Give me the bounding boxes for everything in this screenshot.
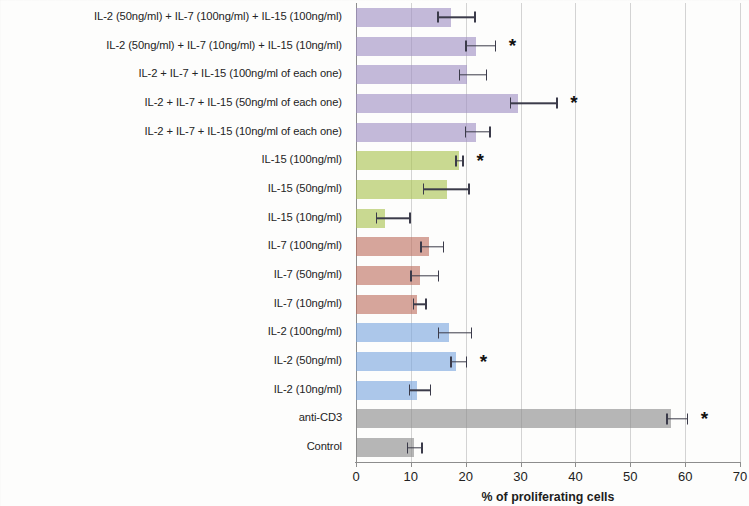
category-label: IL-7 (100ng/ml): [268, 240, 342, 251]
category-label: IL-2 (50ng/ml) + IL-7 (10ng/ml) + IL-15 …: [106, 40, 342, 51]
x-tick-label-0: 0: [352, 469, 359, 484]
error-bar: [420, 246, 442, 247]
bar-row[interactable]: [356, 123, 740, 142]
x-axis-title: % of proliferating cells: [356, 490, 740, 504]
significance-asterisk: *: [480, 352, 487, 371]
error-bar: [465, 131, 490, 132]
plot-area: *****: [356, 3, 740, 462]
bar-row[interactable]: *: [356, 37, 740, 56]
error-bar-cap-low: [510, 98, 511, 109]
error-bar: [666, 418, 686, 419]
x-tick-60: [685, 462, 686, 467]
bar-row[interactable]: *: [356, 94, 740, 113]
error-bar-cap-high: [425, 299, 426, 310]
x-tick-label-30: 30: [513, 469, 527, 484]
bar-control[interactable]: [356, 409, 671, 428]
error-bar-cap-low: [410, 270, 411, 281]
bar-triple-combination[interactable]: [356, 37, 476, 56]
error-bar-cap-high: [466, 356, 467, 367]
error-bar-cap-high: [443, 241, 444, 252]
error-bar-cap-low: [413, 299, 414, 310]
error-bar: [510, 103, 557, 104]
x-tick-50: [630, 462, 631, 467]
bar-row[interactable]: [356, 295, 740, 314]
error-bar-cap-low: [420, 241, 421, 252]
bar-triple-combination[interactable]: [356, 94, 518, 113]
error-bar: [410, 275, 437, 276]
error-bar-cap-low: [438, 327, 439, 338]
x-tick-20: [466, 462, 467, 467]
error-bar-cap-low: [376, 213, 377, 224]
category-label: anti-CD3: [299, 412, 342, 423]
error-bar-cap-high: [687, 413, 688, 424]
category-label: IL-2 + IL-7 + IL-15 (100ng/ml of each on…: [138, 68, 342, 79]
bar-row[interactable]: *: [356, 352, 740, 371]
category-label: IL-7 (10ng/ml): [274, 298, 342, 309]
error-bar: [459, 74, 486, 75]
proliferation-bar-chart: IL-2 (50ng/ml) + IL-7 (100ng/ml) + IL-15…: [0, 0, 749, 506]
x-axis-line: [355, 462, 741, 463]
category-label: IL-2 (50ng/ml): [274, 355, 342, 366]
bar-row[interactable]: [356, 266, 740, 285]
error-bar-cap-low: [459, 69, 460, 80]
bar-IL-2[interactable]: [356, 352, 456, 371]
bar-control[interactable]: [356, 438, 414, 457]
bar-row[interactable]: [356, 65, 740, 84]
significance-asterisk: *: [509, 36, 516, 55]
category-label: IL-2 (10ng/ml): [274, 384, 342, 395]
error-bar: [450, 361, 465, 362]
error-bar-cap-low: [450, 356, 451, 367]
bar-IL-15[interactable]: [356, 151, 459, 170]
bar-row[interactable]: *: [356, 151, 740, 170]
error-bar-cap-low: [409, 385, 410, 396]
category-label: IL-15 (50ng/ml): [268, 183, 342, 194]
x-tick-70: [740, 462, 741, 467]
significance-asterisk: *: [701, 409, 708, 428]
bar-IL-7[interactable]: [356, 237, 429, 256]
error-bar: [438, 332, 471, 333]
error-bar-cap-high: [409, 213, 410, 224]
x-tick-label-50: 50: [623, 469, 637, 484]
bar-row[interactable]: *: [356, 409, 740, 428]
error-bar: [407, 447, 421, 448]
bar-IL-2[interactable]: [356, 323, 449, 342]
bar-row[interactable]: [356, 381, 740, 400]
error-bar-cap-high: [421, 442, 422, 453]
error-bar-cap-high: [438, 270, 439, 281]
error-bar-cap-high: [468, 184, 469, 195]
error-bar-cap-high: [471, 327, 472, 338]
bar-IL-7[interactable]: [356, 295, 417, 314]
x-tick-30: [521, 462, 522, 467]
category-label: IL-2 (50ng/ml) + IL-7 (100ng/ml) + IL-15…: [94, 11, 342, 22]
category-label: IL-2 + IL-7 + IL-15 (10ng/ml of each one…: [145, 126, 342, 137]
bar-row[interactable]: [356, 209, 740, 228]
error-bar-cap-high: [430, 385, 431, 396]
x-tick-label-20: 20: [458, 469, 472, 484]
error-bar-cap-low: [407, 442, 408, 453]
x-tick-label-70: 70: [733, 469, 747, 484]
error-bar-cap-high: [495, 41, 496, 52]
x-tick-label-40: 40: [568, 469, 582, 484]
error-bar: [409, 390, 430, 391]
error-bar-cap-high: [462, 155, 463, 166]
bar-row[interactable]: [356, 180, 740, 199]
x-tick-label-10: 10: [404, 469, 418, 484]
error-bar-cap-high: [474, 12, 475, 23]
category-label: IL-2 (100ng/ml): [268, 326, 342, 337]
bar-triple-combination[interactable]: [356, 123, 476, 142]
error-bar-cap-low: [423, 184, 424, 195]
category-label: IL-2 + IL-7 + IL-15 (50ng/ml of each one…: [145, 97, 342, 108]
error-bar-cap-low: [465, 41, 466, 52]
error-bar-cap-high: [556, 98, 557, 109]
bar-triple-combination[interactable]: [356, 65, 467, 84]
error-bar: [437, 17, 474, 18]
bar-row[interactable]: [356, 237, 740, 256]
x-axis: % of proliferating cells 010203040506070: [356, 462, 740, 506]
bar-row[interactable]: [356, 323, 740, 342]
error-bar: [465, 45, 495, 46]
error-bar-cap-high: [489, 127, 490, 138]
bar-row[interactable]: [356, 438, 740, 457]
error-bar: [376, 217, 409, 218]
bar-row[interactable]: [356, 8, 740, 27]
error-bar: [423, 189, 469, 190]
